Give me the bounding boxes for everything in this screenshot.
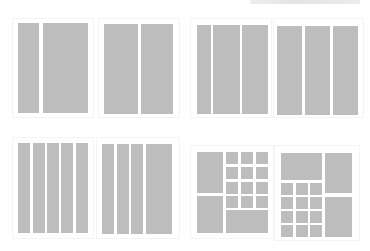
tall-block [325, 153, 352, 193]
column-block [333, 26, 358, 115]
grid-cell [281, 211, 293, 223]
grid-cell [310, 183, 322, 195]
grid-cell [281, 183, 293, 195]
column-block [146, 144, 172, 234]
tall-block [325, 197, 352, 237]
grid-cell [226, 196, 238, 208]
column-block [242, 25, 268, 114]
column-block [33, 143, 45, 233]
tall-block [197, 196, 223, 233]
header-text-cropped [250, 0, 360, 4]
grid-cell [226, 182, 238, 194]
tall-block [197, 152, 223, 193]
column-block [117, 144, 129, 234]
grid-cell [241, 152, 253, 164]
column-block [18, 143, 30, 233]
column-block [43, 23, 88, 113]
grid-cell [256, 182, 268, 194]
grid-cell [310, 225, 322, 237]
grid-cell [296, 225, 308, 237]
grid-cell [296, 197, 308, 209]
grid-cell [241, 167, 253, 179]
grid-cell [281, 225, 293, 237]
column-block [277, 26, 302, 115]
column-block [305, 26, 330, 115]
column-block [141, 24, 173, 114]
column-block [18, 23, 39, 113]
grid-cell [256, 152, 268, 164]
grid-cell [310, 211, 322, 223]
grid-cell [241, 196, 253, 208]
grid-cell [241, 182, 253, 194]
grid-cell [296, 211, 308, 223]
grid-cell [296, 183, 308, 195]
column-block [102, 144, 114, 234]
grid-cell [226, 152, 238, 164]
grid-cell [281, 197, 293, 209]
column-block [131, 144, 143, 234]
column-block [47, 143, 59, 233]
grid-cell [256, 167, 268, 179]
grid-cell [310, 197, 322, 209]
grid-cell [256, 196, 268, 208]
wide-block [226, 210, 268, 233]
grid-cell [226, 167, 238, 179]
wide-block [281, 153, 322, 180]
column-block [213, 25, 240, 114]
column-block [104, 24, 138, 114]
column-block [76, 143, 88, 233]
column-block [197, 25, 211, 114]
column-block [61, 143, 73, 233]
